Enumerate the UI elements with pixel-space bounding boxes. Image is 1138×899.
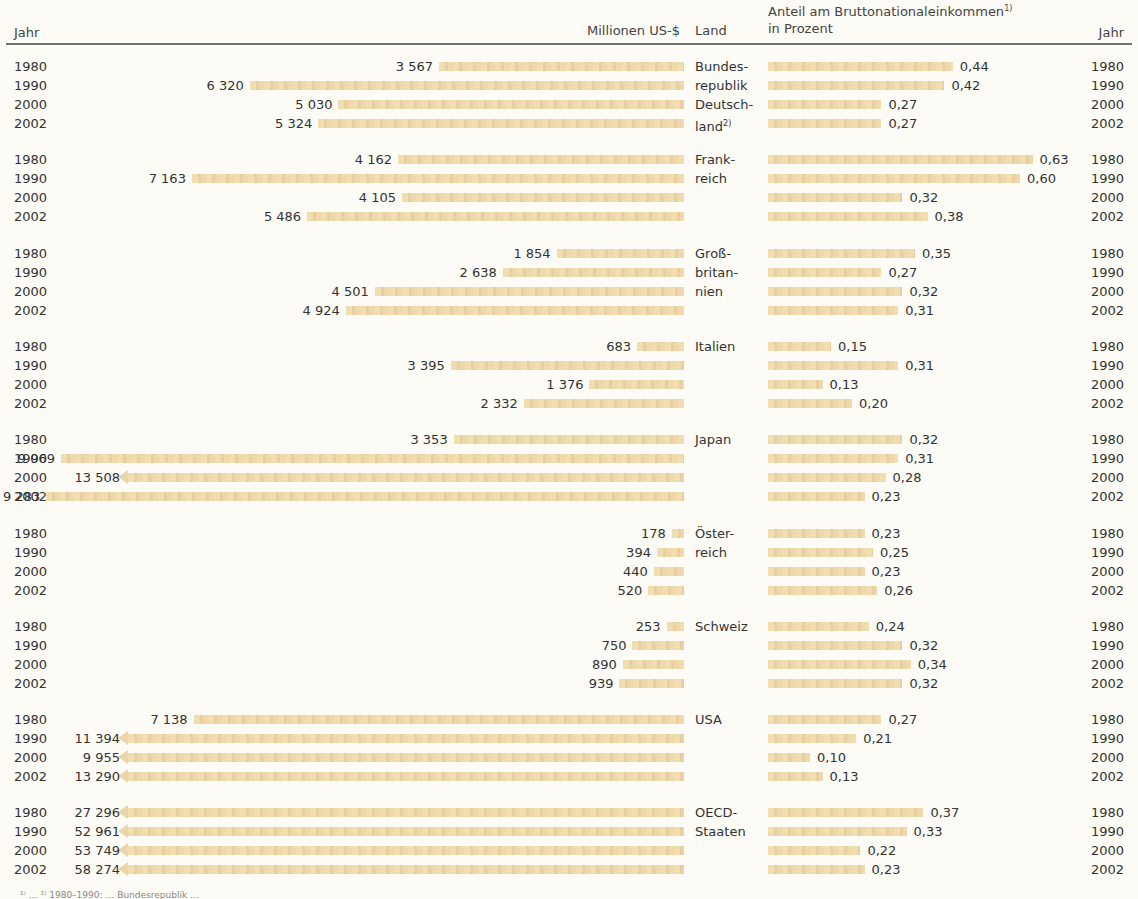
country-label: nien: [695, 282, 723, 301]
year-right: 2002: [1091, 581, 1124, 600]
year-left: 2000: [14, 841, 47, 860]
usd-value: 440: [623, 562, 648, 581]
usd-value: 3 353: [410, 430, 447, 449]
usd-bar: [194, 715, 684, 724]
year-right: 2000: [1091, 748, 1124, 767]
country-label: republik: [695, 76, 748, 95]
year-right: 2002: [1091, 114, 1124, 133]
footnote: ¹⁾ … ²⁾ 1980–1990: … Bundesrepublik …: [20, 890, 199, 899]
usd-value: 4 924: [303, 301, 340, 320]
pct-bar: [768, 827, 907, 836]
pct-bar: [768, 641, 902, 650]
year-left: 1980: [14, 57, 47, 76]
year-left: 1990: [14, 169, 47, 188]
pct-bar: [768, 435, 902, 444]
pct-value: 0,27: [888, 114, 917, 133]
usd-bar: [128, 753, 684, 762]
year-right: 2000: [1091, 188, 1124, 207]
year-right: 2000: [1091, 562, 1124, 581]
year-right: 1980: [1091, 617, 1124, 636]
pct-value: 0,21: [863, 729, 892, 748]
pct-value: 0,38: [935, 207, 964, 226]
country-label: Japan: [695, 430, 731, 449]
pct-value: 0,20: [859, 394, 888, 413]
pct-bar: [768, 62, 953, 71]
usd-bar: [128, 772, 684, 781]
pct-bar: [768, 492, 865, 501]
usd-bar: [250, 81, 684, 90]
year-left: 1990: [14, 543, 47, 562]
pct-value: 0,24: [876, 617, 905, 636]
usd-bar: [589, 380, 684, 389]
pct-bar: [768, 454, 898, 463]
pct-value: 0,23: [872, 524, 901, 543]
usd-bar: [128, 473, 684, 482]
country-label: land2): [695, 114, 731, 136]
usd-value: 4 105: [359, 188, 396, 207]
year-left: 1980: [14, 430, 47, 449]
usd-bar: [318, 119, 684, 128]
pct-value: 0,37: [930, 803, 959, 822]
usd-value: 1 376: [546, 375, 583, 394]
year-left: 1990: [14, 356, 47, 375]
pct-value: 0,10: [817, 748, 846, 767]
pct-bar: [768, 306, 898, 315]
country-label: reich: [695, 169, 727, 188]
header-share-sup: 1): [1004, 4, 1012, 13]
pct-bar: [768, 734, 856, 743]
usd-value: 7 138: [150, 710, 187, 729]
year-right: 2000: [1091, 655, 1124, 674]
country-label: Deutsch-: [695, 95, 753, 114]
header-share: Anteil am Bruttonationaleinkommen1): [768, 4, 1012, 19]
year-right: 1980: [1091, 57, 1124, 76]
year-right: 2000: [1091, 375, 1124, 394]
year-left: 2002: [14, 301, 47, 320]
country-label: Öster-: [695, 524, 734, 543]
header-year-right: Jahr: [1099, 25, 1124, 40]
pct-bar: [768, 846, 860, 855]
pct-value: 0,32: [909, 430, 938, 449]
usd-value: 9 069: [18, 449, 55, 468]
pct-bar: [768, 548, 873, 557]
pct-value: 0,27: [888, 263, 917, 282]
year-left: 2002: [14, 394, 47, 413]
year-right: 2002: [1091, 207, 1124, 226]
usd-bar: [623, 660, 684, 669]
usd-bar: [648, 586, 684, 595]
year-right: 2000: [1091, 468, 1124, 487]
year-right: 2002: [1091, 767, 1124, 786]
usd-bar: [619, 679, 684, 688]
year-left: 2000: [14, 468, 47, 487]
chart: Jahr Millionen US-$ Land Anteil am Brutt…: [0, 0, 1138, 899]
usd-bar: [375, 287, 684, 296]
usd-bar: [402, 193, 684, 202]
usd-bar: [632, 641, 684, 650]
year-right: 1990: [1091, 449, 1124, 468]
pct-value: 0,32: [909, 636, 938, 655]
usd-value: 520: [617, 581, 642, 600]
year-right: 1990: [1091, 263, 1124, 282]
pct-value: 0,23: [872, 860, 901, 879]
pct-bar: [768, 679, 902, 688]
pct-bar: [768, 772, 823, 781]
pct-value: 0,42: [951, 76, 980, 95]
pct-bar: [768, 753, 810, 762]
year-left: 1980: [14, 150, 47, 169]
usd-value: 13 290: [72, 767, 120, 786]
year-left: 2002: [14, 767, 47, 786]
header-rule: [6, 43, 1132, 45]
year-right: 2002: [1091, 674, 1124, 693]
year-right: 1980: [1091, 803, 1124, 822]
year-right: 1990: [1091, 543, 1124, 562]
pct-value: 0,32: [909, 188, 938, 207]
country-label: britan-: [695, 263, 738, 282]
usd-value: 53 749: [72, 841, 120, 860]
pct-bar: [768, 287, 902, 296]
pct-value: 0,63: [1040, 150, 1069, 169]
pct-value: 0,32: [909, 282, 938, 301]
year-left: 2000: [14, 562, 47, 581]
pct-value: 0,26: [884, 581, 913, 600]
usd-value: 2 638: [460, 263, 497, 282]
year-left: 1990: [14, 729, 47, 748]
year-left: 2002: [14, 207, 47, 226]
